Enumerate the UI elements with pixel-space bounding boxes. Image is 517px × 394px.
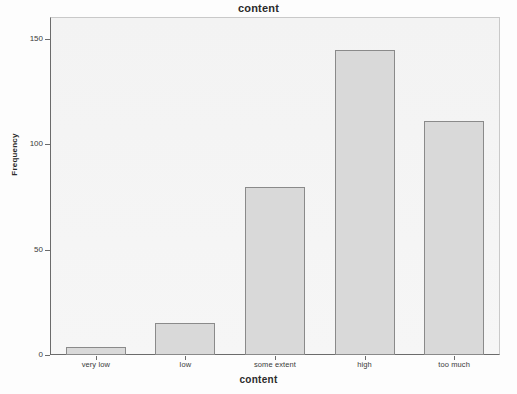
y-axis-tick-label: 100 [0, 138, 50, 150]
x-axis-tick-label: very low [51, 360, 141, 369]
chart-screenshot: content 050100150 very low low some exte… [0, 0, 517, 394]
bar-high [335, 50, 395, 355]
bar-too-much [424, 121, 484, 355]
y-axis-tick-mark [45, 144, 50, 145]
x-axis-tick-label: some extent [230, 360, 320, 369]
x-axis-tick-label: too much [409, 360, 499, 369]
bar-slot [141, 18, 231, 355]
y-axis-tick-mark [45, 250, 50, 251]
x-axis-tick-label: high [320, 360, 410, 369]
bar-very-low [66, 347, 126, 355]
y-axis-tick-mark [45, 39, 50, 40]
x-axis-labels: very low low some extent high too much [51, 360, 499, 369]
chart-title: content [0, 2, 517, 14]
x-axis-tick-mark [365, 356, 366, 360]
bar-low [155, 323, 215, 355]
x-axis-tick-mark [454, 356, 455, 360]
x-axis-title: content [0, 374, 517, 385]
x-axis-tick-mark [275, 356, 276, 360]
y-axis-tick-label: 50 [0, 244, 50, 256]
x-axis-tick-mark [185, 356, 186, 360]
y-axis-tick-label: 0 [0, 349, 50, 361]
y-axis-tick-label: 150 [0, 33, 50, 45]
bar-slot [409, 18, 499, 355]
bar-some-extent [245, 187, 305, 356]
bar-slot [320, 18, 410, 355]
x-axis-tick-mark [96, 356, 97, 360]
bar-slot [230, 18, 320, 355]
bar-slot [51, 18, 141, 355]
x-axis-tick-label: low [141, 360, 231, 369]
y-axis-tick-mark [45, 355, 50, 356]
y-axis-title: Frequency [10, 105, 19, 205]
bar-series [51, 18, 499, 355]
